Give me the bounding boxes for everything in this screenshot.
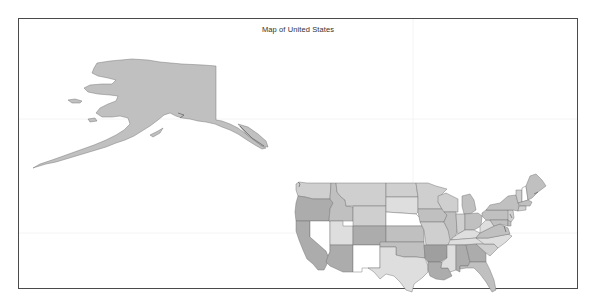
us-map <box>0 0 597 305</box>
state-maine[interactable] <box>526 174 546 200</box>
state-kansas[interactable] <box>386 226 424 242</box>
state-ohio[interactable] <box>465 213 482 230</box>
state-oregon[interactable] <box>295 196 333 221</box>
state-arizona[interactable] <box>326 245 353 272</box>
state-pennsylvania[interactable] <box>482 210 510 220</box>
state-new-york[interactable] <box>486 195 519 211</box>
state-nebraska[interactable] <box>386 212 422 226</box>
state-connecticut[interactable] <box>518 206 526 211</box>
state-north-dakota[interactable] <box>386 183 418 197</box>
state-michigan[interactable] <box>462 194 476 214</box>
state-arkansas[interactable] <box>424 245 448 262</box>
state-south-dakota[interactable] <box>386 197 418 214</box>
state-iowa[interactable] <box>418 209 447 222</box>
state-florida[interactable] <box>460 262 496 292</box>
state-utah[interactable] <box>330 221 353 245</box>
contiguous-states <box>295 174 546 292</box>
state-wyoming[interactable] <box>353 206 386 226</box>
state-alaska[interactable] <box>33 59 268 168</box>
